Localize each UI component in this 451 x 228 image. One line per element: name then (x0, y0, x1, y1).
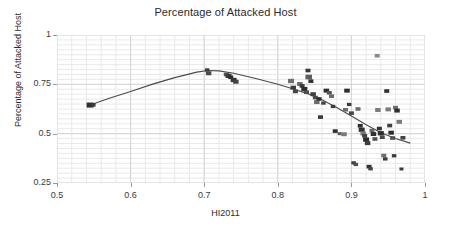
data-point (378, 131, 384, 135)
data-point (387, 124, 392, 128)
data-point (362, 134, 367, 138)
data-point (318, 115, 323, 119)
data-point (368, 167, 373, 170)
data-point (399, 167, 403, 170)
data-point (305, 75, 312, 80)
y-tick-mark (53, 35, 57, 36)
x-tick-label: 0.7 (184, 190, 224, 200)
data-point (288, 79, 294, 83)
data-point (338, 132, 342, 135)
data-point (392, 154, 397, 157)
data-point (304, 90, 309, 94)
data-point (371, 132, 377, 136)
data-point (205, 68, 210, 71)
data-point (365, 141, 371, 145)
data-point (394, 109, 400, 113)
data-point (372, 137, 377, 141)
data-point (347, 103, 352, 106)
x-tick-mark (425, 183, 426, 187)
scatter-chart: Percentage of Attacked Host Percentage o… (0, 0, 451, 228)
data-point (333, 129, 338, 133)
y-tick-mark (53, 84, 57, 85)
data-point (396, 120, 402, 124)
x-tick-mark (204, 183, 205, 187)
data-point (305, 69, 310, 73)
chart-title: Percentage of Attacked Host (0, 6, 451, 18)
x-axis-label: HI2011 (0, 208, 451, 218)
data-point (343, 108, 348, 112)
x-tick-mark (57, 183, 58, 187)
data-point (321, 101, 326, 104)
data-point (308, 79, 313, 83)
y-tick-label: 0.5 (11, 128, 51, 138)
data-point (91, 103, 96, 107)
data-point (233, 80, 239, 84)
data-point (206, 71, 212, 75)
data-point (354, 163, 359, 166)
data-point (363, 137, 369, 141)
data-point (375, 108, 381, 112)
x-tick-mark (131, 183, 132, 187)
data-point (349, 111, 354, 115)
data-layer (57, 35, 425, 183)
y-tick-label: 1 (11, 29, 51, 39)
data-point (381, 154, 386, 158)
data-point (400, 136, 405, 140)
data-point (327, 91, 332, 95)
data-point (356, 107, 361, 111)
x-tick-label: 0.8 (258, 190, 298, 200)
data-point (341, 132, 347, 136)
data-point (384, 89, 389, 93)
data-point (317, 97, 322, 101)
data-point (377, 127, 382, 131)
x-tick-label: 0.9 (331, 190, 371, 200)
data-point (291, 86, 297, 90)
x-tick-label: 0.5 (37, 190, 77, 200)
data-point (370, 129, 375, 133)
y-tick-label: 0.25 (11, 177, 51, 187)
y-tick-label: 0.75 (11, 78, 51, 88)
plot-area (57, 35, 425, 183)
x-tick-mark (351, 183, 352, 187)
data-point (359, 128, 365, 132)
data-point (375, 54, 380, 58)
data-point (358, 124, 363, 128)
x-tick-label: 0.6 (111, 190, 151, 200)
data-point (385, 107, 391, 111)
data-point (310, 92, 316, 96)
data-point (390, 136, 395, 140)
data-point (388, 131, 394, 135)
data-point (380, 135, 385, 139)
data-point (293, 90, 298, 94)
x-tick-label: 1 (405, 190, 445, 200)
data-point (383, 157, 388, 160)
data-point (344, 89, 350, 93)
data-point (329, 94, 334, 98)
y-tick-mark (53, 134, 57, 135)
data-point (331, 105, 336, 108)
x-tick-mark (278, 183, 279, 187)
